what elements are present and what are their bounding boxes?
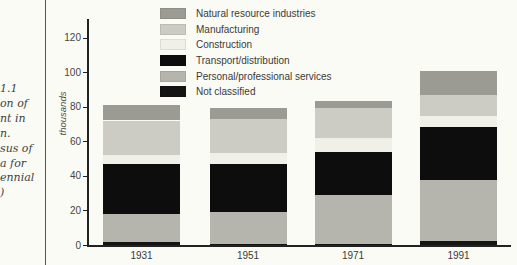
chart-legend: Natural resource industries Manufacturin… (160, 8, 332, 102)
y-axis-tick-label: 80 (59, 101, 81, 112)
bar-segment (420, 241, 497, 245)
y-axis-line (87, 19, 89, 246)
bar-segment (315, 152, 392, 195)
bar-segment (103, 242, 180, 245)
y-axis-tick-label: 0 (59, 240, 81, 251)
legend-swatch-personal-professional-services (160, 71, 186, 82)
bar-segment (420, 71, 497, 95)
legend-label: Manufacturing (196, 24, 259, 35)
caption-line: ) (0, 186, 34, 201)
legend-swatch-transport-distribution (160, 55, 186, 66)
legend-item: Manufacturing (160, 24, 332, 35)
legend-item: Not classified (160, 86, 332, 97)
caption-line: sus of (0, 142, 34, 157)
y-axis-tick (83, 72, 88, 73)
legend-swatch-construction (160, 39, 186, 50)
bar-segment (210, 108, 287, 118)
y-axis-tick-label: 60 (59, 136, 81, 147)
legend-item: Personal/professional services (160, 71, 332, 82)
legend-item: Construction (160, 39, 332, 50)
legend-item: Transport/distribution (160, 55, 332, 66)
page-rule (45, 0, 46, 265)
bar-segment (210, 212, 287, 244)
y-axis-tick-label: 120 (59, 32, 81, 43)
caption-line: on of (0, 97, 34, 112)
y-axis-tick (83, 141, 88, 142)
bar-segment (420, 180, 497, 241)
bar-segment (103, 214, 180, 242)
y-axis-tick (83, 245, 88, 246)
y-axis-tick (83, 176, 88, 177)
x-axis-category-label: 1931 (120, 250, 164, 261)
legend-label: Personal/professional services (196, 71, 332, 82)
caption-line: a for (0, 157, 34, 172)
x-axis-category-label: 1971 (331, 250, 375, 261)
legend-swatch-manufacturing (160, 24, 186, 35)
bar-segment (103, 164, 180, 214)
x-axis-category-label: 1951 (226, 250, 270, 261)
y-axis-tick-label: 40 (59, 170, 81, 181)
caption-line: n. (0, 127, 34, 142)
x-axis-line (87, 245, 511, 247)
y-axis-tick-label: 20 (59, 205, 81, 216)
bar-segment (103, 121, 180, 156)
bar-segment (420, 127, 497, 181)
bar-segment (315, 195, 392, 244)
y-axis-tick (83, 210, 88, 211)
bar-segment (103, 105, 180, 121)
legend-item: Natural resource industries (160, 8, 332, 19)
caption-line: ennial (0, 171, 34, 186)
legend-swatch-not-classified (160, 86, 186, 97)
bar-segment (315, 244, 392, 245)
figure-caption: 1.1 on of nt in n. sus of a for ennial ) (0, 82, 34, 201)
caption-line: nt in (0, 112, 34, 127)
bar-segment (210, 153, 287, 163)
x-axis-category-label: 1991 (437, 250, 481, 261)
legend-label: Not classified (196, 86, 255, 97)
caption-line: 1.1 (0, 82, 34, 97)
legend-label: Natural resource industries (196, 8, 316, 19)
legend-swatch-natural-resources (160, 8, 186, 19)
y-axis-tick-label: 100 (59, 67, 81, 78)
bar-segment (103, 155, 180, 164)
bar-segment (315, 108, 392, 137)
legend-label: Transport/distribution (196, 55, 290, 66)
bar-segment (210, 164, 287, 212)
y-axis-title: thousands (57, 85, 68, 143)
bar-segment (315, 101, 392, 109)
figure-employment-stacked-bar-chart: 1.1 on of nt in n. sus of a for ennial )… (0, 0, 517, 265)
legend-label: Construction (196, 39, 252, 50)
bar-segment (210, 244, 287, 245)
bar-segment (420, 116, 497, 126)
y-axis-tick (83, 38, 88, 39)
y-axis-tick (83, 107, 88, 108)
bar-segment (420, 95, 497, 116)
bar-segment (210, 119, 287, 154)
bar-segment (315, 138, 392, 152)
